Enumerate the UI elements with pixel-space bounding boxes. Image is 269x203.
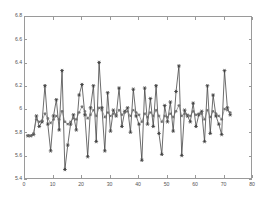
x-tick: [167, 175, 168, 178]
y-tick-label: 5.6: [2, 153, 22, 158]
x-tick-label: 50: [159, 182, 175, 187]
y-tick-label: 6.6: [2, 37, 22, 42]
y-tick-label: 6.2: [2, 83, 22, 88]
y-tick-right: [249, 179, 252, 180]
y-tick: [24, 86, 27, 87]
data-point-marker: [26, 134, 29, 137]
x-tick: [110, 175, 111, 178]
y-tick: [24, 39, 27, 40]
y-tick-right: [249, 109, 252, 110]
data-point-marker: [43, 112, 46, 115]
y-tick: [24, 179, 27, 180]
x-tick: [252, 175, 253, 178]
x-tick-label: 0: [16, 182, 32, 187]
y-tick: [24, 132, 27, 133]
y-tick-label: 6.8: [2, 13, 22, 18]
y-tick-label: 6.4: [2, 60, 22, 65]
x-tick-label: 40: [130, 182, 146, 187]
x-tick-top: [138, 17, 139, 20]
y-tick-label: 5.8: [2, 130, 22, 135]
x-tick: [138, 175, 139, 178]
y-tick: [24, 109, 27, 110]
data-point-marker: [140, 120, 143, 123]
x-tick-label: 70: [216, 182, 232, 187]
y-tick-right: [249, 63, 252, 64]
y-tick-label: 5.4: [2, 176, 22, 181]
data-point-marker: [160, 120, 163, 123]
data-point-marker: [103, 116, 106, 119]
x-tick-top: [224, 17, 225, 20]
figure-canvas: 5.45.65.866.26.46.66.8 01020304050607080: [0, 0, 269, 203]
x-tick-top: [167, 17, 168, 20]
x-tick-label: 20: [73, 182, 89, 187]
plot-frame: [24, 16, 252, 179]
x-tick-top: [81, 17, 82, 20]
x-tick: [224, 175, 225, 178]
x-tick-top: [110, 17, 111, 20]
plot-svg: [25, 17, 253, 180]
data-point-marker: [81, 105, 84, 108]
x-tick-top: [252, 17, 253, 20]
x-tick-label: 30: [102, 182, 118, 187]
y-tick-label: 6: [2, 106, 22, 111]
y-tick-right: [249, 86, 252, 87]
data-point-marker: [163, 115, 166, 118]
x-tick: [195, 175, 196, 178]
x-tick: [24, 175, 25, 178]
x-tick: [53, 175, 54, 178]
data-point-marker: [228, 113, 232, 116]
y-tick: [24, 63, 27, 64]
y-tick-right: [249, 132, 252, 133]
x-tick-top: [53, 17, 54, 20]
x-tick-label: 60: [187, 182, 203, 187]
y-tick-right: [249, 156, 252, 157]
x-tick-label: 10: [45, 182, 61, 187]
y-tick-right: [249, 39, 252, 40]
y-tick: [24, 156, 27, 157]
x-tick: [81, 175, 82, 178]
x-tick-label: 80: [244, 182, 260, 187]
x-tick-top: [24, 17, 25, 20]
data-point-marker: [118, 109, 121, 112]
x-tick-top: [195, 17, 196, 20]
